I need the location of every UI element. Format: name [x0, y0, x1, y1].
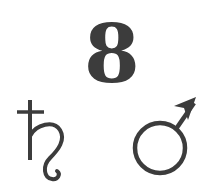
- digit-eight-label: 8: [84, 18, 128, 90]
- digit-eight: 8: [84, 18, 128, 90]
- saturn-icon: [14, 98, 74, 184]
- mars-icon: [128, 92, 204, 182]
